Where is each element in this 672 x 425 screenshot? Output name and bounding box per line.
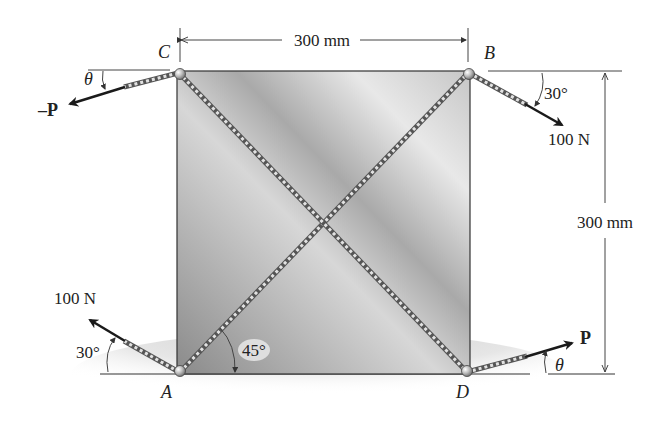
cable-b-external	[469, 73, 527, 105]
force-label-p: P	[580, 328, 591, 348]
angle-arc-theta-c	[102, 71, 105, 89]
angle-label-theta-d: θ	[555, 355, 564, 375]
force-label-100n-b: 100 N	[548, 130, 590, 149]
force-label-100n-a: 100 N	[54, 289, 96, 308]
dimension-label-top: 300 mm	[294, 31, 350, 50]
pin-d	[462, 366, 473, 377]
angle-arc-30-b	[535, 73, 543, 106]
force-label-neg-p: –P	[37, 100, 58, 120]
angle-label-30-a: 30°	[76, 343, 100, 362]
angle-label-30-b: 30°	[544, 84, 568, 103]
force-arrow-100n-b	[525, 104, 562, 125]
point-label-a: A	[160, 382, 173, 402]
diagram-canvas: 300 mm 300 mm C B A D –P θ 100 N 30° 100…	[0, 0, 672, 425]
point-label-c: C	[158, 42, 171, 62]
force-arrow-100n-a	[90, 320, 125, 341]
point-label-d: D	[455, 382, 469, 402]
angle-label-45: 45°	[242, 341, 266, 360]
angle-label-theta-c: θ	[84, 69, 93, 89]
force-arrow-p	[525, 343, 572, 357]
pin-a	[175, 366, 186, 377]
pin-c	[175, 69, 186, 80]
pin-b	[464, 69, 475, 80]
point-label-b: B	[484, 43, 495, 63]
cable-c-external	[124, 73, 178, 87]
force-arrow-neg-p	[70, 87, 125, 104]
dimension-label-right: 300 mm	[577, 213, 633, 232]
